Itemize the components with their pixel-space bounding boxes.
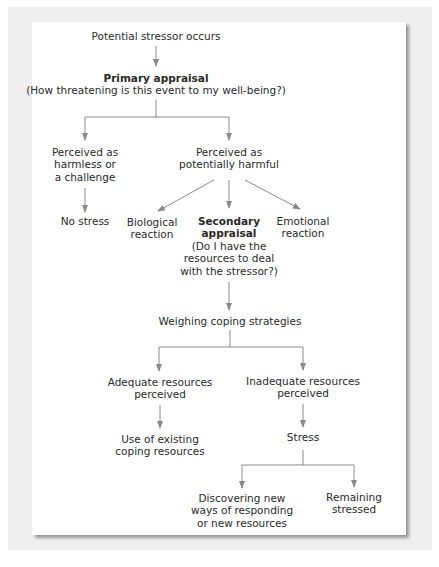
node-secondary-appraisal: Secondary appraisal (Do I have the resou… bbox=[180, 215, 278, 277]
node-existing-coping: Use of existing coping resources bbox=[115, 433, 204, 458]
node-adequate-resources: Adequate resources perceived bbox=[108, 376, 213, 401]
node-remaining-stressed: Remaining stressed bbox=[326, 491, 382, 516]
primary-appraisal-title: Primary appraisal bbox=[26, 72, 286, 84]
node-potential-stressor: Potential stressor occurs bbox=[92, 30, 221, 42]
arrow-harmful-emotional bbox=[245, 180, 300, 209]
node-stress: Stress bbox=[287, 431, 319, 443]
node-inadequate-resources: Inadequate resources perceived bbox=[246, 375, 360, 400]
node-discovering-new: Discovering new ways of responding or ne… bbox=[191, 492, 293, 529]
node-primary-appraisal: Primary appraisal (How threatening is th… bbox=[26, 72, 286, 97]
node-perceived-harmful: Perceived as potentially harmful bbox=[179, 146, 279, 171]
node-weighing-coping: Weighing coping strategies bbox=[159, 315, 302, 327]
arrow-harmful-biological bbox=[158, 180, 214, 211]
node-emotional-reaction: Emotional reaction bbox=[277, 215, 330, 240]
node-biological-reaction: Biological reaction bbox=[127, 216, 178, 241]
node-no-stress: No stress bbox=[61, 215, 110, 227]
node-perceived-harmless: Perceived as harmless or a challenge bbox=[52, 146, 118, 183]
